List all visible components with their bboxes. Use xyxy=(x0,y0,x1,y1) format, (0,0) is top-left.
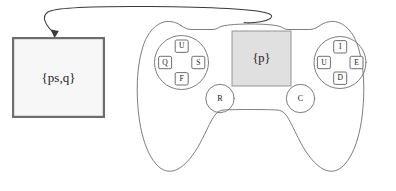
right-button-left[interactable]: U xyxy=(317,56,330,68)
right-button-down[interactable]: D xyxy=(334,72,347,84)
left-button-right-label: S xyxy=(196,58,200,67)
right-stick-button[interactable]: C xyxy=(286,84,314,112)
diagram-canvas: {ps,q} {p} U Q S xyxy=(0,0,396,191)
left-box-label: {ps,q} xyxy=(42,70,76,85)
left-button-down[interactable]: F xyxy=(175,73,188,85)
touchpad-label: {p} xyxy=(252,51,270,65)
right-button-right-label: E xyxy=(354,58,359,67)
right-button-right[interactable]: E xyxy=(350,56,363,68)
left-button-up[interactable]: U xyxy=(175,40,188,52)
right-button-up[interactable]: I xyxy=(334,41,347,53)
right-button-cluster: I U E D xyxy=(314,37,366,89)
arrowhead-icon xyxy=(51,29,59,38)
left-button-up-label: U xyxy=(179,41,185,50)
left-state-box: {ps,q} xyxy=(12,37,105,118)
gamepad-diagram-figure: {ps,q} {p} U Q S xyxy=(0,0,396,191)
right-button-left-label: U xyxy=(321,58,327,67)
left-button-right[interactable]: S xyxy=(192,56,205,68)
left-stick-label: R xyxy=(217,94,223,103)
touchpad[interactable]: {p} xyxy=(232,31,291,86)
left-button-cluster: U Q S F xyxy=(155,36,209,90)
left-button-left[interactable]: Q xyxy=(159,56,172,68)
right-button-down-label: D xyxy=(337,73,343,82)
left-stick-button[interactable]: R xyxy=(206,84,234,112)
right-stick-label: C xyxy=(298,94,304,103)
left-button-down-label: F xyxy=(180,74,184,83)
arrow-curve xyxy=(44,7,271,34)
left-button-left-label: Q xyxy=(162,58,168,67)
